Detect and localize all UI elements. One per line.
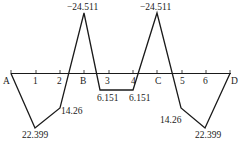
- value-C: −24.511: [140, 2, 171, 12]
- label-A: A: [3, 76, 10, 86]
- label-1: 1: [33, 76, 38, 86]
- moment-diagram: A 1 2 B 3 4 C 5 6 D −24.511 −24.511 6.15…: [0, 0, 240, 142]
- label-2: 2: [57, 76, 62, 86]
- value-5: 14.26: [160, 115, 182, 125]
- value-6: 22.399: [195, 130, 221, 140]
- label-B: B: [80, 76, 86, 86]
- label-3: 3: [105, 76, 110, 86]
- value-B: −24.511: [67, 2, 98, 12]
- label-4: 4: [131, 76, 136, 86]
- label-C: C: [155, 76, 161, 86]
- value-3: 6.151: [97, 93, 119, 103]
- label-D: D: [231, 76, 238, 86]
- value-4: 6.151: [129, 93, 151, 103]
- label-6: 6: [203, 76, 208, 86]
- moment-curve: [11, 13, 230, 128]
- value-2: 14.26: [61, 106, 83, 116]
- label-5: 5: [180, 76, 185, 86]
- value-1: 22.399: [22, 130, 48, 140]
